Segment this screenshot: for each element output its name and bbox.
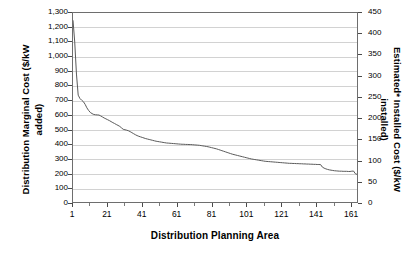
y-axis-right-tick-mark	[358, 33, 362, 34]
x-axis-tick-label: 101	[231, 209, 261, 219]
y-axis-left-tick-label: 900	[32, 67, 68, 75]
y-axis-right-tick-label: 50	[368, 178, 398, 186]
y-axis-left-tick-label: 400	[32, 140, 68, 148]
x-axis-tick-label: 61	[162, 209, 192, 219]
x-axis-tick-mark	[246, 203, 247, 207]
plot-area	[72, 12, 358, 203]
y-axis-right-tick-label: 400	[368, 29, 398, 37]
y-axis-left-tick-label: 1,200	[32, 23, 68, 31]
y-axis-left-tick-label: 1,000	[32, 52, 68, 60]
y-axis-left-tick-label: 600	[32, 111, 68, 119]
x-axis-minor-tick-mark	[194, 203, 195, 206]
y-axis-right-tick-label: 450	[368, 8, 398, 16]
y-axis-right-tick-mark	[358, 12, 362, 13]
y-axis-left-tick-mark	[68, 130, 72, 131]
y-axis-right-tick-label: 200	[368, 114, 398, 122]
y-axis-left-tick-mark	[68, 188, 72, 189]
y-axis-left-tick-mark	[68, 41, 72, 42]
y-axis-left-tick-label: 700	[32, 96, 68, 104]
y-axis-right-tick-label: 300	[368, 72, 398, 80]
x-axis-tick-label: 21	[92, 209, 122, 219]
y-axis-right-tick-label: 0	[368, 199, 398, 207]
y-axis-left-tick-label: 1,100	[32, 37, 68, 45]
x-axis-tick-mark	[177, 203, 178, 207]
x-axis-minor-tick-mark	[264, 203, 265, 206]
y-axis-right-tick-mark	[358, 118, 362, 119]
x-axis-tick-mark	[351, 203, 352, 207]
x-axis-tick-mark	[107, 203, 108, 207]
y-axis-left-tick-mark	[68, 159, 72, 160]
y-axis-left-tick-label: 200	[32, 170, 68, 178]
x-axis-tick-label: 161	[336, 209, 366, 219]
y-axis-right-tick-mark	[358, 76, 362, 77]
x-axis-tick-mark	[281, 203, 282, 207]
y-axis-left-tick-label: 500	[32, 126, 68, 134]
x-axis-tick-label: 121	[266, 209, 296, 219]
y-axis-left-tick-mark	[68, 71, 72, 72]
y-axis-right-tick-mark	[358, 161, 362, 162]
y-axis-left-tick-label: 0	[32, 199, 68, 207]
x-axis-tick-label: 141	[301, 209, 331, 219]
y-axis-left-tick-mark	[68, 85, 72, 86]
x-axis-tick-mark	[316, 203, 317, 207]
x-axis-minor-tick-mark	[334, 203, 335, 206]
y-axis-left-tick-mark	[68, 115, 72, 116]
x-axis-title: Distribution Planning Area	[72, 230, 358, 241]
y-axis-left-tick-mark	[68, 27, 72, 28]
x-axis-minor-tick-mark	[124, 203, 125, 206]
y-axis-right-tick-label: 100	[368, 157, 398, 165]
y-axis-right-tick-mark	[358, 182, 362, 183]
x-axis-tick-label: 41	[127, 209, 157, 219]
x-axis-tick-mark	[212, 203, 213, 207]
x-axis-tick-label: 1	[57, 209, 87, 219]
x-axis-tick-mark	[72, 203, 73, 207]
y-axis-right-tick-mark	[358, 139, 362, 140]
x-axis-tick-label: 81	[197, 209, 227, 219]
y-axis-left-tick-label: 1,300	[32, 8, 68, 16]
chart-figure: Distribution Marginal Cost ($/kW added) …	[0, 0, 420, 254]
y-axis-right-tick-label: 150	[368, 135, 398, 143]
x-axis-tick-mark	[142, 203, 143, 207]
y-axis-left-tick-mark	[68, 100, 72, 101]
x-axis-minor-tick-mark	[159, 203, 160, 206]
y-axis-right-tick-mark	[358, 54, 362, 55]
y-axis-right-tick-label: 350	[368, 50, 398, 58]
x-axis-minor-tick-mark	[299, 203, 300, 206]
y-axis-right-tick-label: 250	[368, 93, 398, 101]
y-axis-right-tick-mark	[358, 97, 362, 98]
y-axis-left-tick-mark	[68, 12, 72, 13]
x-axis-minor-tick-mark	[229, 203, 230, 206]
x-axis-minor-tick-mark	[89, 203, 90, 206]
y-axis-left-tick-mark	[68, 144, 72, 145]
data-series-line	[73, 13, 357, 202]
y-axis-left-tick-label: 300	[32, 155, 68, 163]
y-axis-right-tick-mark	[358, 203, 362, 204]
y-axis-left-tick-mark	[68, 56, 72, 57]
y-axis-left-tick-label: 100	[32, 184, 68, 192]
y-axis-left-tick-mark	[68, 174, 72, 175]
y-axis-left-tick-label: 800	[32, 81, 68, 89]
